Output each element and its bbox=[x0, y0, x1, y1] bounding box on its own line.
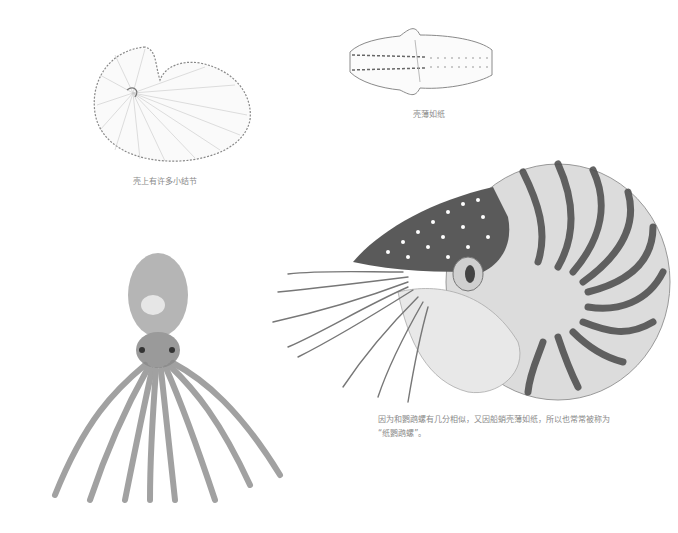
octopus-drawing bbox=[35, 250, 285, 510]
shell-drawing bbox=[85, 35, 255, 170]
paper-nautilus-shell-top-illustration bbox=[340, 20, 495, 102]
caption-nautilus-description: 因为和鹦鹉螺有几分相似，又因船蛸壳薄如纸，所以也常常被称为 “纸鹦鹉螺”。 bbox=[378, 413, 678, 441]
caption-shell-thin: 壳薄如纸 bbox=[413, 108, 445, 122]
paper-nautilus-shell-illustration bbox=[85, 35, 255, 170]
caption-line-2: “纸鹦鹉螺”。 bbox=[378, 427, 678, 441]
octopus-illustration bbox=[35, 250, 285, 510]
caption-line-1: 因为和鹦鹉螺有几分相似，又因船蛸壳薄如纸，所以也常常被称为 bbox=[378, 413, 678, 427]
caption-shell-nodules: 壳上有许多小结节 bbox=[133, 175, 197, 189]
chambered-nautilus-illustration bbox=[268, 142, 673, 407]
shell-top-drawing bbox=[340, 20, 495, 102]
nautilus-drawing bbox=[268, 142, 673, 407]
